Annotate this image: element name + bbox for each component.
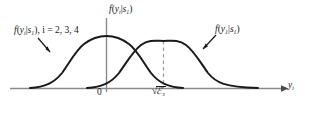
- figure-container: f(yi|s1), i = 2, 3, 4 f(yi|s1) f(y1|s1) …: [0, 0, 312, 115]
- figure-canvas: [0, 0, 312, 115]
- radicand-group: ℰs: [156, 86, 165, 98]
- mean-tick-label: √ℰs: [152, 86, 166, 98]
- right-curve-label-close: ): [237, 24, 240, 34]
- horizontal-axis-label-var-sub: i: [292, 85, 294, 91]
- signal-present-density-curve: [87, 41, 258, 88]
- left-label-leader-arrow: [38, 38, 50, 52]
- horizontal-axis-label: yi: [288, 81, 294, 92]
- right-curve-label: f(y1|s1): [215, 25, 240, 36]
- vertical-axis-label: f(yi|s1): [109, 5, 132, 16]
- origin-tick-value: 0: [97, 87, 102, 97]
- energy-symbol-sub: s: [162, 91, 164, 97]
- left-curve-label: f(yi|s1), i = 2, 3, 4: [14, 26, 79, 37]
- right-label-leader-arrow: [203, 35, 216, 49]
- left-curve-label-suffix: , i = 2, 3, 4: [37, 25, 78, 35]
- horizontal-axis: [10, 85, 289, 92]
- vertical-axis-label-close: ): [129, 4, 132, 14]
- origin-tick-label: 0: [97, 88, 102, 98]
- radical-expression: √ℰs: [152, 86, 166, 98]
